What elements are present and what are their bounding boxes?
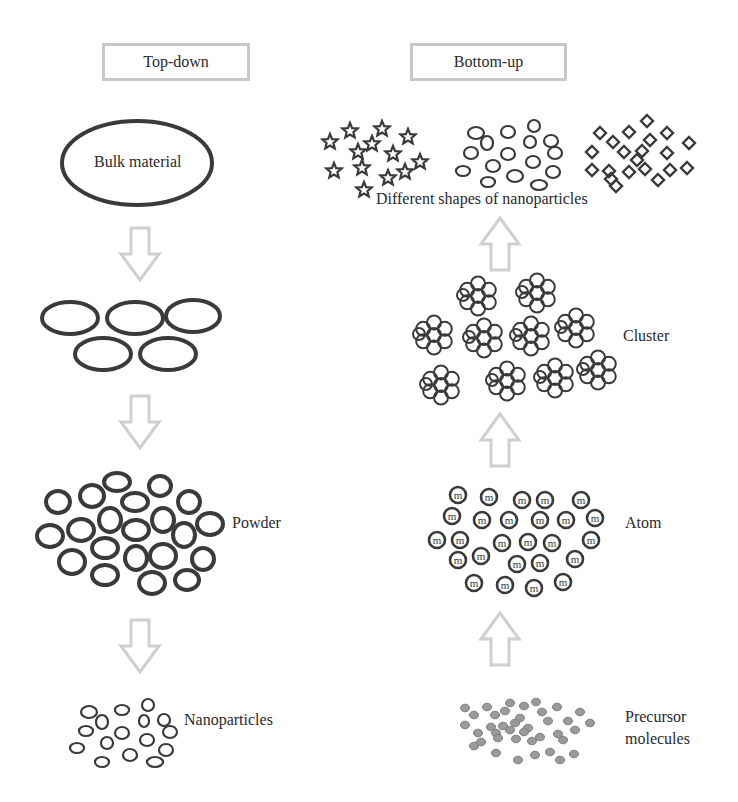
diamond-nanoparticle-icon [623,166,635,178]
powder-particle [123,520,149,540]
atom-glyph: m [562,514,571,526]
nanoparticle [70,743,84,753]
powder-particle [152,508,174,532]
diamond-nanoparticle-icon [607,136,619,148]
diamond-nanoparticle-icon [664,164,676,176]
atom-glyph: m [541,494,550,506]
cluster [510,317,549,356]
cluster [534,359,573,398]
oval-nanoparticle [481,136,493,150]
powder-particle [175,570,199,590]
precursor-molecule [506,699,515,707]
precursor-molecule [570,750,579,758]
star-nanoparticle-icon [412,154,427,169]
oval-nanoparticle [486,160,500,172]
precursor-molecule [506,726,515,734]
atom-glyph: m [548,537,557,549]
powder-particles-group [37,473,223,594]
diamond-nanoparticles-group [586,115,695,192]
powder-particle [80,485,104,507]
oval-nanoparticle [464,147,478,159]
star-nanoparticle-icon [326,163,341,178]
cluster-label: Cluster [623,328,669,344]
powder-particle [139,572,165,594]
star-nanoparticle-icon [400,129,415,144]
cluster [420,366,459,405]
atom-icon: m [544,535,560,551]
precursor-molecule [531,751,540,759]
nanoparticle [147,757,163,767]
diamond-nanoparticle-icon [623,126,635,138]
precursor-molecule [474,729,483,737]
atom-glyph: m [591,512,600,524]
precursor-molecule [571,726,580,734]
precursor-molecule [544,717,553,725]
atom-icon: m [450,487,466,503]
fragment-ellipse [166,300,220,332]
precursor-molecule [494,734,503,742]
atom-icon: m [452,532,468,548]
star-nanoparticle-icon [374,121,389,136]
precursor-molecule [564,717,573,725]
precursor-molecule [470,711,479,719]
cluster [555,309,594,348]
cluster [463,319,502,358]
oval-nanoparticle [526,156,540,168]
precursor-molecule [492,749,501,757]
down-arrow-icon [121,620,159,672]
different-shapes-label: Different shapes of nanoparticles [376,191,588,207]
atom-glyph: m [501,579,510,591]
star-nanoparticle-icon [322,134,337,149]
oval-nanoparticle [524,136,536,148]
powder-particle [149,476,171,496]
star-nanoparticle-icon [364,136,379,151]
atom-icon: m [444,508,460,524]
diamond-nanoparticle-icon [641,115,653,127]
diamond-nanoparticle-icon [683,137,695,149]
star-nanoparticles-group [322,121,427,197]
diamond-nanoparticle-icon [618,146,630,158]
powder-particle [192,548,214,570]
precursor-molecule [559,736,568,744]
cluster [457,277,496,316]
atom-glyph: m [587,534,596,546]
oval-nanoparticle [456,166,470,176]
precursor-molecule [536,733,545,741]
atom-glyph: m [513,558,522,570]
diamond-nanoparticle-icon [644,134,656,146]
star-nanoparticle-icon [342,123,357,138]
atom-icon: m [473,548,489,564]
diamond-nanoparticle-icon [610,180,622,192]
atom-icon: m [494,535,510,551]
precursor-molecule [511,719,520,727]
precursor-label-line1: Precursor [625,709,686,725]
nanoparticle [142,699,154,711]
diamond-nanoparticle-icon [586,164,598,176]
atom-glyph: m [456,534,465,546]
precursor-molecule [538,708,547,716]
atom-icon: m [497,577,513,593]
precursor-molecules-group [461,698,595,764]
down-arrow-icon [121,228,159,280]
atom-icon: m [466,575,482,591]
powder-particle [99,508,121,532]
nanoparticle [123,749,137,761]
powder-particle [173,523,195,547]
precursor-molecule [483,703,492,711]
atom-glyph: m [478,514,487,526]
atom-glyph: m [485,491,494,503]
powder-particle [46,491,70,513]
diamond-nanoparticle-icon [661,147,673,159]
powder-particle [125,546,147,570]
atom-icon: m [501,512,517,528]
powder-particle [150,544,176,568]
nanoparticle [95,757,109,767]
star-nanoparticle-icon [350,144,365,159]
atom-icon: m [429,532,445,548]
atom-glyph: m [577,494,586,506]
atom-icon: m [587,510,603,526]
diamond-nanoparticle-icon [586,146,598,158]
diamond-nanoparticle-icon [639,163,651,175]
atom-glyph: m [470,577,479,589]
oval-nanoparticles-group [456,120,562,190]
